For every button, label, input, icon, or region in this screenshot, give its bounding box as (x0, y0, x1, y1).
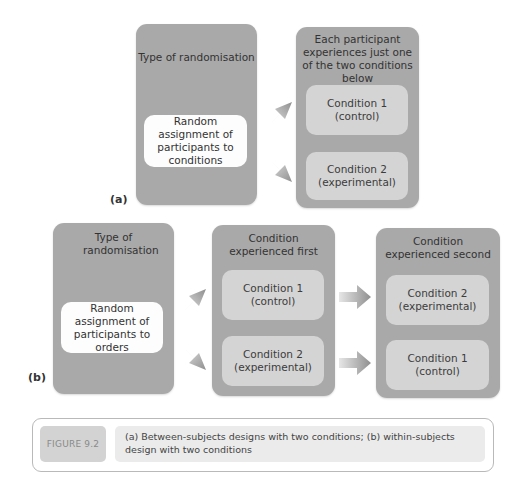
b-second-condition-panel: Condition experienced second Condition 2… (376, 228, 500, 398)
a-randomisation-panel: Type of randomisation Random assignment … (136, 24, 257, 205)
b-first-condition-1-name: Condition 1 (243, 282, 303, 295)
b-first-condition-1-type: (control) (243, 295, 303, 308)
b-randomisation-title: Type of randomisation (53, 231, 174, 257)
arrow-down-right-icon (262, 152, 296, 186)
b-first-condition-title: Condition experienced first (212, 232, 335, 258)
b-label: (b) (28, 371, 46, 384)
arrow-up-right-icon (262, 98, 296, 132)
b-first-condition-1-box: Condition 1 (control) (222, 270, 324, 320)
a-condition-2-name: Condition 2 (318, 163, 396, 176)
caption-text: (a) Between-subjects designs with two co… (115, 426, 485, 462)
arrow-down-right-icon (176, 340, 210, 374)
a-label: (a) (110, 193, 127, 206)
b-random-assignment-box: Random assignment of participants to ord… (61, 302, 163, 353)
b-random-assignment-text: Random assignment of participants to ord… (65, 302, 159, 354)
arrow-up-right-icon (176, 285, 210, 319)
b-second-condition-2-box: Condition 2 (experimental) (386, 275, 489, 325)
b-first-condition-2-name: Condition 2 (234, 348, 312, 361)
b-second-condition-1-box: Condition 1 (control) (386, 340, 489, 390)
a-condition-1-type: (control) (327, 110, 387, 123)
b-second-condition-2-type: (experimental) (399, 300, 477, 313)
a-condition-2-box: Condition 2 (experimental) (306, 152, 408, 200)
figure-caption: FIGURE 9.2 (a) Between-subjects designs … (32, 418, 494, 472)
a-condition-1-name: Condition 1 (327, 97, 387, 110)
b-second-condition-2-name: Condition 2 (399, 287, 477, 300)
a-conditions-panel: Each participant experiences just one of… (296, 27, 419, 208)
a-random-assignment-text: Random assignment of participants to con… (148, 115, 243, 167)
arrow-right-icon (339, 350, 373, 376)
a-condition-2-type: (experimental) (318, 176, 396, 189)
b-second-condition-1-name: Condition 1 (407, 352, 467, 365)
b-second-condition-title: Condition experienced second (376, 235, 500, 261)
b-first-condition-2-type: (experimental) (234, 361, 312, 374)
b-second-condition-1-type: (control) (407, 365, 467, 378)
a-condition-1-box: Condition 1 (control) (306, 85, 408, 135)
figure-number: FIGURE 9.2 (40, 426, 106, 462)
a-randomisation-title: Type of randomisation (136, 51, 257, 64)
a-random-assignment-box: Random assignment of participants to con… (144, 115, 247, 167)
b-first-condition-panel: Condition experienced first Condition 1 … (212, 225, 335, 396)
b-first-condition-2-box: Condition 2 (experimental) (222, 336, 324, 386)
b-randomisation-panel: Type of randomisation Random assignment … (53, 223, 174, 394)
arrow-right-icon (339, 284, 373, 310)
a-conditions-title: Each participant experiences just one of… (296, 33, 419, 85)
